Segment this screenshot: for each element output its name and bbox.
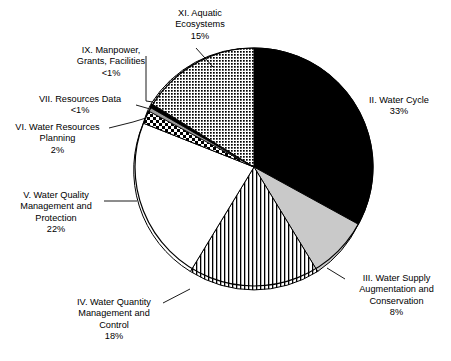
slice-label-percent: 15% — [154, 31, 246, 42]
slice-label-line: Augmentation and — [348, 284, 445, 295]
slice-label-line: Management and — [10, 201, 102, 212]
slice-label-line: Management and — [66, 308, 162, 319]
slice-label-line: V. Water Quality — [10, 190, 102, 201]
slice-label-line: IV. Water Quantity — [66, 297, 162, 308]
slice-label-line: Grants, Facilities — [52, 56, 170, 67]
slice-label-percent: 18% — [66, 331, 162, 342]
slice-label-water-cycle: II. Water Cycle 33% — [357, 95, 441, 118]
slice-label-percent: 22% — [10, 224, 102, 235]
slice-label-water-resources-planning: VI. Water Resources Planning 2% — [7, 122, 108, 156]
slice-label-percent: <1% — [23, 105, 137, 116]
slice-label-percent: <1% — [52, 68, 170, 79]
pie-chart-figure: XI. Aquatic Ecosystems 15% IX. Manpower,… — [0, 0, 451, 361]
slice-label-water-quantity: IV. Water Quantity Management and Contro… — [66, 297, 162, 343]
slice-label-percent: 33% — [357, 106, 441, 117]
slice-label-line: Conservation — [348, 296, 445, 307]
slice-label-line: II. Water Cycle — [357, 95, 441, 106]
slice-label-line: Ecosystems — [154, 19, 246, 30]
pie-slices — [134, 48, 373, 290]
leader-line-resources-data — [136, 105, 150, 109]
slice-label-line: III. Water Supply — [348, 273, 445, 284]
leader-line-water-resources-planning — [109, 118, 146, 128]
slice-label-line: Planning — [7, 133, 108, 144]
slice-label-line: VII. Resources Data — [23, 94, 137, 105]
slice-label-line: VI. Water Resources — [7, 122, 108, 133]
slice-label-water-quality: V. Water Quality Management and Protecti… — [10, 190, 102, 236]
slice-label-resources-data: VII. Resources Data <1% — [23, 94, 137, 117]
slice-label-manpower-grants-facilities: IX. Manpower, Grants, Facilities <1% — [52, 45, 170, 79]
slice-label-line: XI. Aquatic — [154, 8, 246, 19]
leader-line-water-quantity — [163, 289, 190, 303]
slice-label-line: Protection — [10, 213, 102, 224]
slice-label-water-supply: III. Water Supply Augmentation and Conse… — [348, 273, 445, 319]
slice-label-percent: 8% — [348, 307, 445, 318]
slice-label-percent: 2% — [7, 145, 108, 156]
slice-label-line: Control — [66, 320, 162, 331]
leader-line-water-supply — [327, 268, 345, 279]
slice-label-aquatic-ecosystems: XI. Aquatic Ecosystems 15% — [154, 8, 246, 42]
slice-label-line: IX. Manpower, — [52, 45, 170, 56]
